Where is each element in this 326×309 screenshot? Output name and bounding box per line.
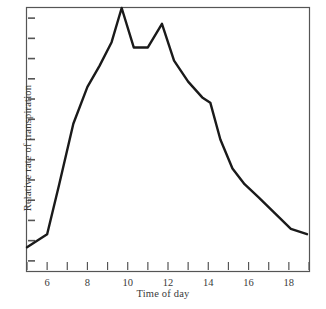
x-axis-tick-label: 16: [243, 277, 254, 288]
x-axis-tick-label: 6: [45, 277, 50, 288]
transpiration-line-chart-figure: 681012141618 Time of day Relative rate o…: [0, 0, 326, 309]
x-axis-tick-label: 18: [284, 277, 295, 288]
x-axis-label: Time of day: [0, 288, 326, 299]
x-axis-tick-label: 14: [203, 277, 214, 288]
figure-background: [0, 0, 326, 309]
y-axis-label: Relative rate of transpiration: [22, 48, 33, 248]
x-axis-tick-label: 10: [122, 277, 133, 288]
chart-canvas: 681012141618: [0, 0, 326, 309]
x-axis-tick-label: 12: [163, 277, 174, 288]
x-axis-tick-label: 8: [85, 277, 90, 288]
